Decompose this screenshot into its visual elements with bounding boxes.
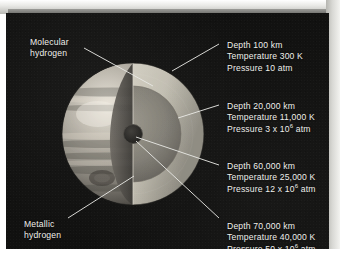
- label-metallic-hydrogen-line1: Metallic: [24, 219, 61, 230]
- leader-callout-2: [178, 105, 219, 118]
- diagram-canvas: Molecular hydrogen Metallic hydrogen Dep…: [6, 13, 329, 250]
- callout-1-pressure: Pressure 10 atm: [227, 63, 303, 74]
- label-molecular-hydrogen-line2: hydrogen: [30, 48, 69, 59]
- callout-1: Depth 100 km Temperature 300 K Pressure …: [227, 40, 303, 74]
- callout-2: Depth 20,000 km Temperature 11,000 K Pre…: [227, 101, 315, 135]
- callout-4-temperature: Temperature 40,000 K: [227, 232, 316, 243]
- leader-callout-1: [172, 44, 219, 71]
- callout-3-temperature: Temperature 25,000 K: [227, 172, 316, 183]
- label-metallic-hydrogen: Metallic hydrogen: [24, 219, 61, 242]
- callout-4-depth: Depth 70,000 km: [227, 221, 316, 232]
- callout-2-pressure: Pressure 3 x 106 atm: [227, 124, 315, 135]
- leader-callout-4: [136, 141, 219, 218]
- leader-metallic-hydrogen: [68, 176, 134, 218]
- callout-3: Depth 60,000 km Temperature 25,000 K Pre…: [227, 161, 316, 195]
- figure-panel: Molecular hydrogen Metallic hydrogen Dep…: [0, 0, 340, 261]
- callout-3-depth: Depth 60,000 km: [227, 161, 316, 172]
- label-metallic-hydrogen-line2: hydrogen: [24, 230, 61, 241]
- label-molecular-hydrogen: Molecular hydrogen: [30, 37, 69, 60]
- bevel-bottom-edge: [0, 249, 340, 261]
- callout-3-pressure: Pressure 12 x 106 atm: [227, 184, 316, 195]
- leader-molecular-hydrogen: [84, 48, 153, 86]
- callout-2-temperature: Temperature 11,000 K: [227, 112, 315, 123]
- callout-1-depth: Depth 100 km: [227, 40, 303, 51]
- callout-2-depth: Depth 20,000 km: [227, 101, 315, 112]
- leader-callout-3: [136, 137, 219, 165]
- callout-4: Depth 70,000 km Temperature 40,000 K Pre…: [227, 221, 316, 250]
- label-molecular-hydrogen-line1: Molecular: [30, 37, 69, 48]
- callout-1-temperature: Temperature 300 K: [227, 51, 303, 62]
